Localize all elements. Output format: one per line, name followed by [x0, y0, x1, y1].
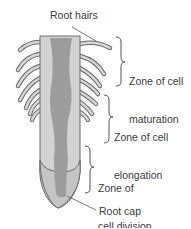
label-division-line2: cell division — [98, 220, 152, 229]
brace-division — [85, 146, 94, 193]
brace-maturation — [116, 37, 125, 86]
label-elongation-line1: Zone of cell — [114, 131, 168, 144]
label-root-cap: Root cap — [99, 205, 141, 218]
brace-elongation — [104, 95, 113, 143]
label-root-hairs: Root hairs — [50, 9, 98, 22]
root-cap-leader — [67, 196, 96, 210]
label-maturation-line1: Zone of cell — [129, 75, 183, 88]
label-division-line1: Zone of — [98, 182, 152, 195]
